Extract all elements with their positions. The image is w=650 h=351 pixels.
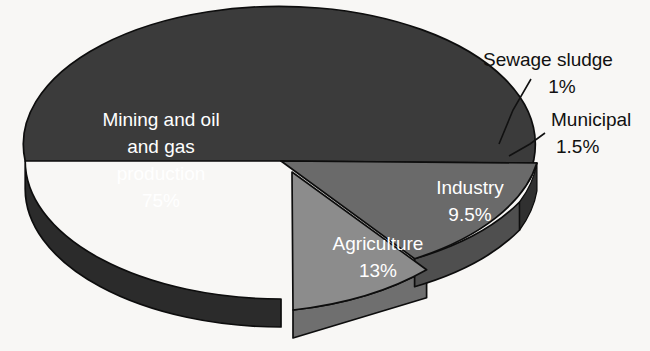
label-industry-name: Industry	[436, 177, 504, 198]
label-mining-line-3: production	[117, 163, 206, 184]
label-municipal-value: 1.5%	[556, 136, 599, 157]
label-sewage-sludge-name: Sewage sludge	[483, 49, 613, 70]
pie-chart-figure: Mining and oil and gas production 75% Ag…	[0, 0, 650, 351]
label-agriculture-name: Agriculture	[333, 233, 424, 254]
label-mining-line-2: and gas	[127, 136, 195, 157]
label-mining-value: 75%	[142, 190, 180, 211]
label-municipal-name: Municipal	[551, 109, 631, 130]
label-agriculture-value: 13%	[359, 260, 397, 281]
pie-chart-svg: Mining and oil and gas production 75% Ag…	[0, 0, 650, 351]
label-mining-line-1: Mining and oil	[102, 109, 219, 130]
label-industry-value: 9.5%	[448, 204, 491, 225]
label-sewage-sludge-value: 1%	[548, 76, 576, 97]
